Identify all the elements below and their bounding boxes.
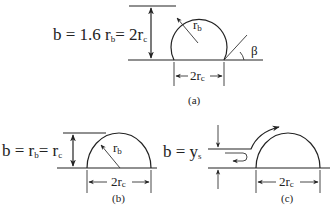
caption-a: (a): [188, 94, 201, 107]
angle-label-beta: β: [251, 43, 258, 58]
caption-c: (c): [281, 192, 294, 205]
panel-b: b = rb= rc rb 2rc (b): [2, 133, 157, 205]
base-dim-label-b: 2rc: [111, 174, 126, 189]
flow-streamline: [208, 127, 279, 149]
base-dim-label-a: 2rc: [190, 68, 205, 83]
figure-canvas: b = 1.6 rb= 2rc rb β 2rc (a) b = rb= rc …: [0, 0, 330, 207]
recirculation-arrow: [225, 153, 247, 161]
panel-a: b = 1.6 rb= 2rc rb β 2rc (a): [53, 6, 263, 107]
base-dim-label-c: 2rc: [279, 174, 294, 189]
radius-label-b: rb: [113, 140, 122, 156]
semicircle-c: [256, 133, 320, 168]
equation-c: b = ys: [163, 142, 202, 161]
caption-b: (b): [112, 192, 125, 205]
angle-arc: [240, 52, 244, 60]
equation-a: b = 1.6 rb= 2rc: [53, 25, 147, 44]
equation-b: b = rb= rc: [2, 141, 62, 160]
panel-c: b = ys 2rc (c): [163, 125, 330, 205]
